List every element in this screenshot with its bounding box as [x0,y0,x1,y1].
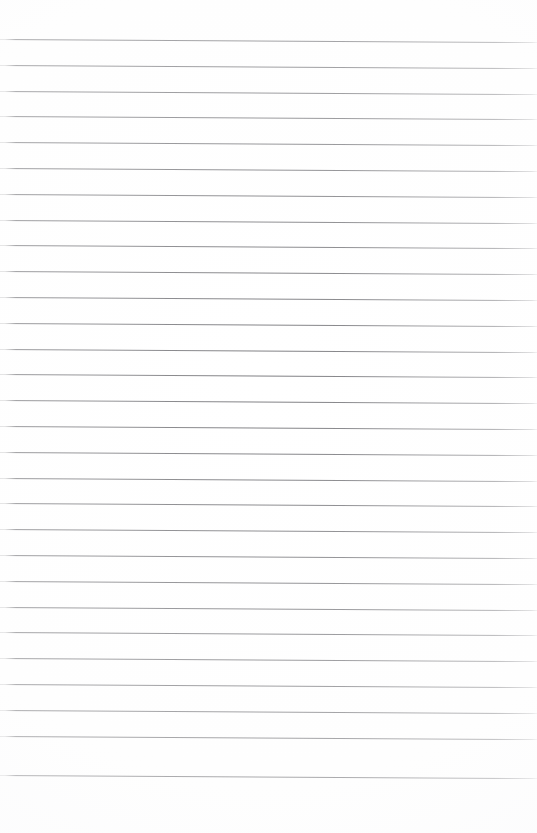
rule-line [0,632,537,636]
rule-line [0,168,537,172]
rule-line [0,736,537,740]
rule-line [0,323,537,327]
rule-line [0,426,537,430]
rule-line [0,194,537,198]
bottom-margin [0,778,537,833]
rule-line [0,349,537,353]
rule-line [0,91,537,95]
rule-line [0,452,537,456]
scanned-page [0,0,537,833]
rule-line [0,478,537,482]
rule-line [0,555,537,559]
rule-line [0,116,537,120]
rule-line [0,658,537,662]
rule-line [0,142,537,146]
rule-line [0,297,537,301]
rule-line [0,581,537,585]
ruled-line-field [0,0,537,833]
rule-line [0,503,537,507]
rule-line [0,710,537,714]
rule-line [0,529,537,533]
rule-line [0,374,537,378]
rule-line [0,39,537,43]
rule-line [0,400,537,404]
rule-line [0,684,537,688]
rule-line [0,271,537,275]
rule-line [0,607,537,611]
rule-line [0,220,537,224]
rule-line [0,65,537,69]
rule-line [0,245,537,249]
